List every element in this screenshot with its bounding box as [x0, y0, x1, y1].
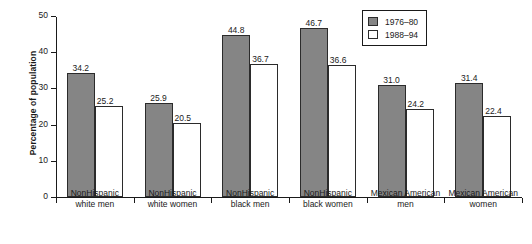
bar-value-label: 25.2 [97, 96, 114, 106]
y-axis-tick-label: 10 [39, 155, 48, 165]
bar-value-label: 36.6 [330, 55, 347, 65]
y-axis-tick-label: 50 [39, 10, 48, 20]
bar: 31.4 [455, 83, 483, 197]
bar-value-label: 24.2 [408, 99, 425, 109]
legend-item: 1976–80 [368, 15, 418, 28]
y-axis-tick: 20 [51, 125, 56, 126]
x-axis-category-label: NonHispanicblack men [205, 188, 295, 210]
legend-swatch-filled-icon [368, 17, 378, 26]
x-axis-category-label-line: black men [205, 199, 295, 210]
bar-value-label: 31.0 [383, 75, 400, 85]
y-axis-tick-label: 20 [39, 119, 48, 129]
bar: 44.8 [222, 35, 250, 197]
bar: 46.7 [300, 28, 328, 197]
x-axis-category-label-line: NonHispanic [128, 188, 218, 199]
bar-value-label: 20.5 [175, 113, 192, 123]
x-axis-category-label-line: white women [128, 199, 218, 210]
y-axis-line [56, 17, 57, 198]
y-axis-tick: 30 [51, 88, 56, 89]
x-axis-category-label-line: NonHispanic [50, 188, 140, 199]
bar: 34.2 [67, 73, 95, 197]
bar: 25.2 [95, 106, 123, 197]
x-axis-category-label: NonHispanicwhite men [50, 188, 140, 210]
x-axis-category-label: NonHispanicwhite women [128, 188, 218, 210]
bar: 36.6 [328, 65, 356, 197]
x-axis-category-label-line: NonHispanic [283, 188, 373, 199]
bar: 36.7 [250, 64, 278, 197]
bar: 31.0 [378, 85, 406, 197]
legend-label: 1976–80 [385, 17, 418, 27]
y-axis-tick: 50 [51, 16, 56, 17]
bar-value-label: 25.9 [150, 93, 167, 103]
y-axis-tick: 10 [51, 161, 56, 162]
y-axis-tick-label: 30 [39, 82, 48, 92]
plot-area: 01020304050 34.225.225.920.544.836.746.7… [56, 17, 522, 198]
x-axis-category-label-line: white men [50, 199, 140, 210]
bar: 22.4 [483, 116, 511, 197]
legend-item: 1988–94 [368, 28, 418, 41]
y-axis-tick: 40 [51, 52, 56, 53]
x-axis-category-label: Mexican Americanmen [361, 188, 451, 210]
x-axis-category-label: NonHispanicblack women [283, 188, 373, 210]
bar: 24.2 [406, 109, 434, 197]
y-axis-title: Percentage of population [28, 8, 38, 198]
x-axis-category-label-line: black women [283, 199, 373, 210]
bar: 20.5 [173, 123, 201, 197]
x-axis-category-label-line: men [361, 199, 451, 210]
x-axis-category-label-line: NonHispanic [205, 188, 295, 199]
bar-value-label: 46.7 [306, 18, 323, 28]
y-axis-tick-label: 0 [43, 191, 48, 201]
bar-value-label: 34.2 [73, 63, 90, 73]
bar-value-label: 31.4 [461, 73, 478, 83]
legend-label: 1988–94 [385, 30, 418, 40]
bar-chart: Percentage of population 01020304050 34.… [0, 0, 532, 244]
legend: 1976–80 1988–94 [362, 10, 427, 46]
x-axis-category-label-line: women [438, 199, 528, 210]
bar-value-label: 22.4 [485, 106, 502, 116]
bar: 25.9 [145, 103, 173, 197]
x-axis-category-label-line: Mexican American [361, 188, 451, 199]
legend-swatch-hollow-icon [368, 30, 378, 39]
bar-value-label: 36.7 [252, 54, 269, 64]
y-axis-tick-label: 40 [39, 46, 48, 56]
bar-value-label: 44.8 [228, 25, 245, 35]
x-axis-category-label-line: Mexican American [438, 188, 528, 199]
x-axis-category-label: Mexican Americanwomen [438, 188, 528, 210]
